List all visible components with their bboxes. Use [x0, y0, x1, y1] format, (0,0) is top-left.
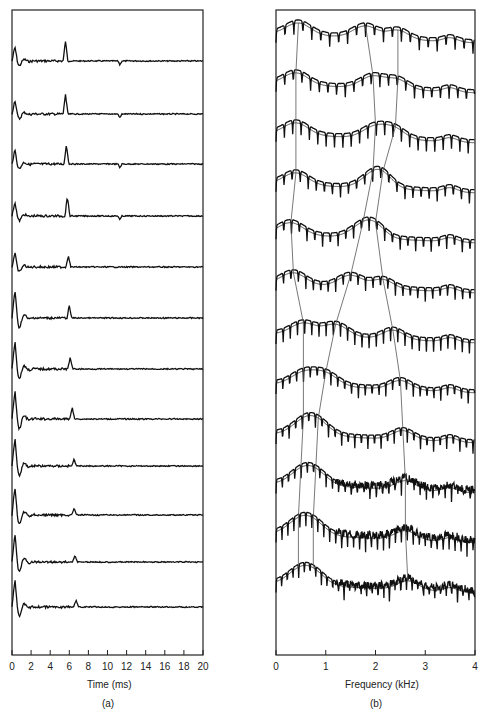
- log-spectrum-trace: [276, 367, 475, 404]
- panel-b-formant-tracks: [291, 23, 408, 581]
- panel-b-tick-label: 1: [323, 661, 329, 672]
- formant-track-f3: [376, 30, 408, 581]
- cepstrum-trace: [12, 391, 203, 429]
- panel-a-traces: [12, 42, 203, 617]
- formant-track-f1: [291, 23, 304, 567]
- panel-a-tick-label: 20: [197, 661, 208, 672]
- figure-canvas: [0, 0, 482, 713]
- panel-b-x-ticks: [276, 650, 475, 655]
- panel-b-caption: (b): [370, 698, 382, 709]
- spectral-envelope: [276, 370, 475, 393]
- panel-b-traces: [276, 20, 475, 603]
- panel-a-tick-label: 10: [102, 661, 113, 672]
- log-spectrum-trace: [276, 166, 475, 203]
- panel-b-tick-label: 4: [472, 661, 478, 672]
- panel-a-caption: (a): [102, 698, 114, 709]
- cepstrum-trace: [12, 199, 203, 221]
- panel-b-spectra: [276, 10, 475, 655]
- panel-a-tick-label: 14: [140, 661, 151, 672]
- panel-b-tick-label: 2: [373, 661, 379, 672]
- cepstrum-trace: [12, 42, 203, 66]
- log-spectrum-trace: [276, 320, 475, 354]
- cepstrum-trace: [12, 292, 203, 328]
- panel-a-tick-label: 0: [9, 661, 15, 672]
- log-spectrum-trace: [276, 463, 475, 503]
- cepstrum-trace: [12, 580, 203, 616]
- cepstrum-trace: [12, 439, 203, 476]
- cepstrum-trace: [12, 94, 203, 119]
- panel-b-tick-label: 0: [273, 661, 279, 672]
- panel-b-xlabel: Frequency (kHz): [345, 679, 419, 690]
- log-spectrum-trace: [276, 270, 475, 302]
- cepstrum-trace: [12, 535, 203, 571]
- panel-a-xlabel: Time (ms): [87, 679, 132, 690]
- panel-a-tick-label: 2: [28, 661, 34, 672]
- panel-a-tick-label: 16: [159, 661, 170, 672]
- panel-a-cepstra: [12, 10, 203, 655]
- cepstrum-trace: [12, 342, 203, 378]
- spectral-envelope: [276, 73, 475, 93]
- log-spectrum-trace: [276, 70, 475, 99]
- cepstrum-trace: [12, 489, 203, 523]
- panel-a-tick-label: 6: [67, 661, 73, 672]
- panel-a-tick-label: 12: [121, 661, 132, 672]
- panel-b-tick-label: 3: [422, 661, 428, 672]
- log-spectrum-trace: [276, 413, 475, 454]
- panel-a-x-ticks: [12, 650, 203, 655]
- panel-a-tick-label: 4: [47, 661, 53, 672]
- log-spectrum-trace: [276, 512, 475, 556]
- log-spectrum-trace: [276, 562, 475, 602]
- panel-a-frame: [12, 10, 203, 655]
- cepstrum-trace: [12, 253, 203, 271]
- panel-b-frame: [276, 10, 475, 655]
- panel-a-tick-label: 18: [178, 661, 189, 672]
- panel-a-tick-label: 8: [86, 661, 92, 672]
- cepstrum-trace: [12, 146, 203, 168]
